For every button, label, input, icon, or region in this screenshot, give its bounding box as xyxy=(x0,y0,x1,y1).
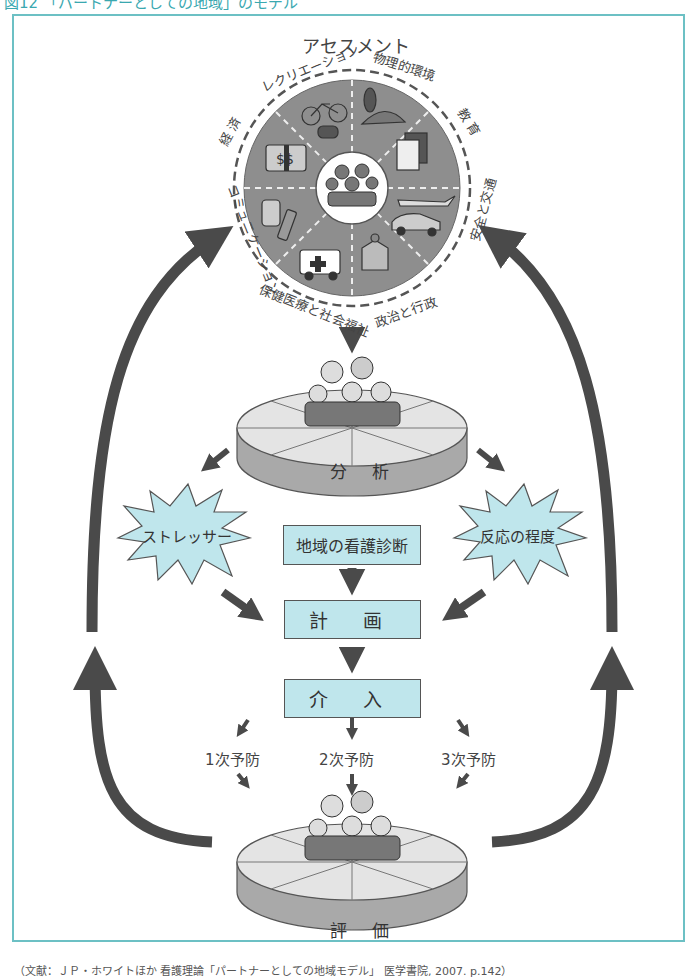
plan-box: 計 画 xyxy=(284,600,421,639)
family-icon xyxy=(305,791,400,860)
nursing-diagnosis-label: 地域の看護診断 xyxy=(296,533,408,557)
prevention-secondary: 2次予防 xyxy=(319,748,374,769)
stressor-label: ストレッサー xyxy=(142,525,232,546)
prevention-tertiary: 3次予防 xyxy=(441,748,496,769)
prevention-primary: 1次予防 xyxy=(205,748,260,769)
arrow-stressor-to-plan xyxy=(223,592,254,614)
arrow-to-reaction xyxy=(478,450,498,466)
arrow-to-primary xyxy=(240,720,248,732)
figure-footer: （文献：ＪＰ・ホワイトほか 看護理論「パートナーとしての地域モデル」 医学書院,… xyxy=(14,962,512,978)
family-icon xyxy=(305,357,400,426)
arrow-tertiary-to-eval xyxy=(460,774,468,784)
arrow-primary-to-eval xyxy=(238,774,246,784)
intervention-label: 介 入 xyxy=(309,685,395,712)
plan-label: 計 画 xyxy=(309,606,395,633)
evaluation-disk xyxy=(237,791,467,930)
intervention-box: 介 入 xyxy=(284,679,421,718)
evaluation-label: 評 価 xyxy=(330,917,399,942)
analysis-label: 分 析 xyxy=(330,458,399,483)
arrow-to-tertiary xyxy=(458,720,466,732)
arrow-to-stressor xyxy=(208,450,228,466)
reaction-label: 反応の程度 xyxy=(480,525,555,546)
arrow-reaction-to-plan xyxy=(452,592,484,614)
nursing-diagnosis-box: 地域の看護診断 xyxy=(283,525,421,565)
money-icon: $$ xyxy=(266,145,306,171)
